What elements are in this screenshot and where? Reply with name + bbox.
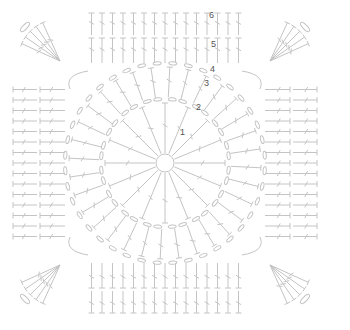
round-3-stitches — [69, 67, 261, 259]
round-1-stitches — [105, 103, 225, 223]
crochet-chart — [0, 0, 350, 330]
round-label-6: 6 — [209, 11, 214, 20]
round-label-3: 3 — [204, 79, 209, 88]
round-5-stitches — [40, 38, 290, 288]
round-label-2: 2 — [196, 103, 201, 112]
round-label-5: 5 — [211, 40, 216, 49]
center-ring — [156, 154, 174, 172]
round-label-4: 4 — [210, 65, 215, 74]
round-label-1: 1 — [180, 128, 185, 137]
